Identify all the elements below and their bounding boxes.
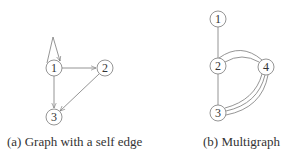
graph-self-edge: 1 2 3 xyxy=(46,37,113,125)
edge-1-1-self-loop xyxy=(47,37,60,63)
node-label: 2 xyxy=(215,59,221,73)
node-label: 1 xyxy=(51,61,57,75)
multigraph: 1 2 4 3 xyxy=(210,11,274,121)
edge-2-4-a xyxy=(219,50,262,60)
node-b-1: 1 xyxy=(210,11,226,27)
caption-b: (b) Multigraph xyxy=(203,134,280,150)
edge-2-4-b xyxy=(225,57,259,62)
node-a-1: 1 xyxy=(46,60,62,76)
node-label: 2 xyxy=(102,61,108,75)
node-label: 3 xyxy=(51,110,57,124)
node-b-4: 4 xyxy=(258,59,274,75)
node-b-3: 3 xyxy=(210,105,226,121)
caption-a: (a) Graph with a self edge xyxy=(7,134,142,150)
node-a-3: 3 xyxy=(46,109,62,125)
node-a-2: 2 xyxy=(97,60,113,76)
edge-4-3-a xyxy=(225,74,262,108)
node-b-2: 2 xyxy=(210,58,226,74)
node-label: 3 xyxy=(215,106,221,120)
edge-2-3 xyxy=(60,74,99,111)
node-label: 4 xyxy=(263,60,269,74)
node-label: 1 xyxy=(215,12,221,26)
